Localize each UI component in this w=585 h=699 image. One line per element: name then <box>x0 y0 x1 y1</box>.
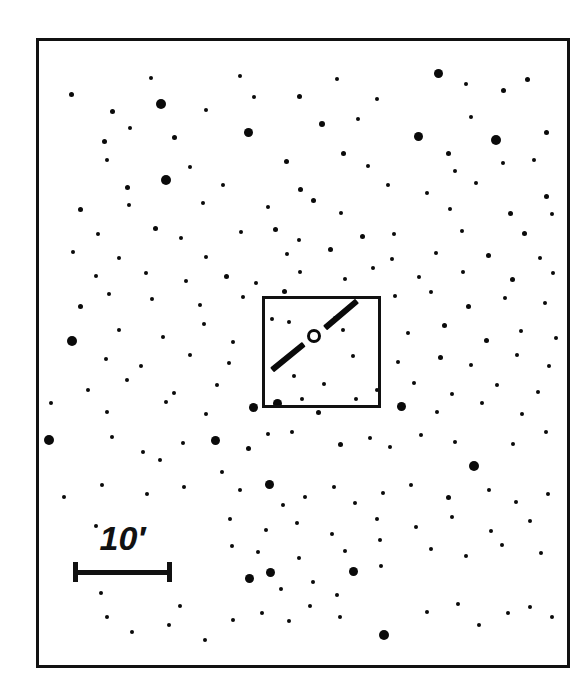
scale-bar-cap-left <box>73 562 78 582</box>
inset-field-box <box>262 296 381 408</box>
scale-bar-line <box>73 570 172 575</box>
scale-bar-cap-right <box>167 562 172 582</box>
finder-chart: 10′ <box>0 0 585 699</box>
target-object-marker <box>307 329 321 343</box>
scale-bar-label: 10′ <box>100 519 146 558</box>
